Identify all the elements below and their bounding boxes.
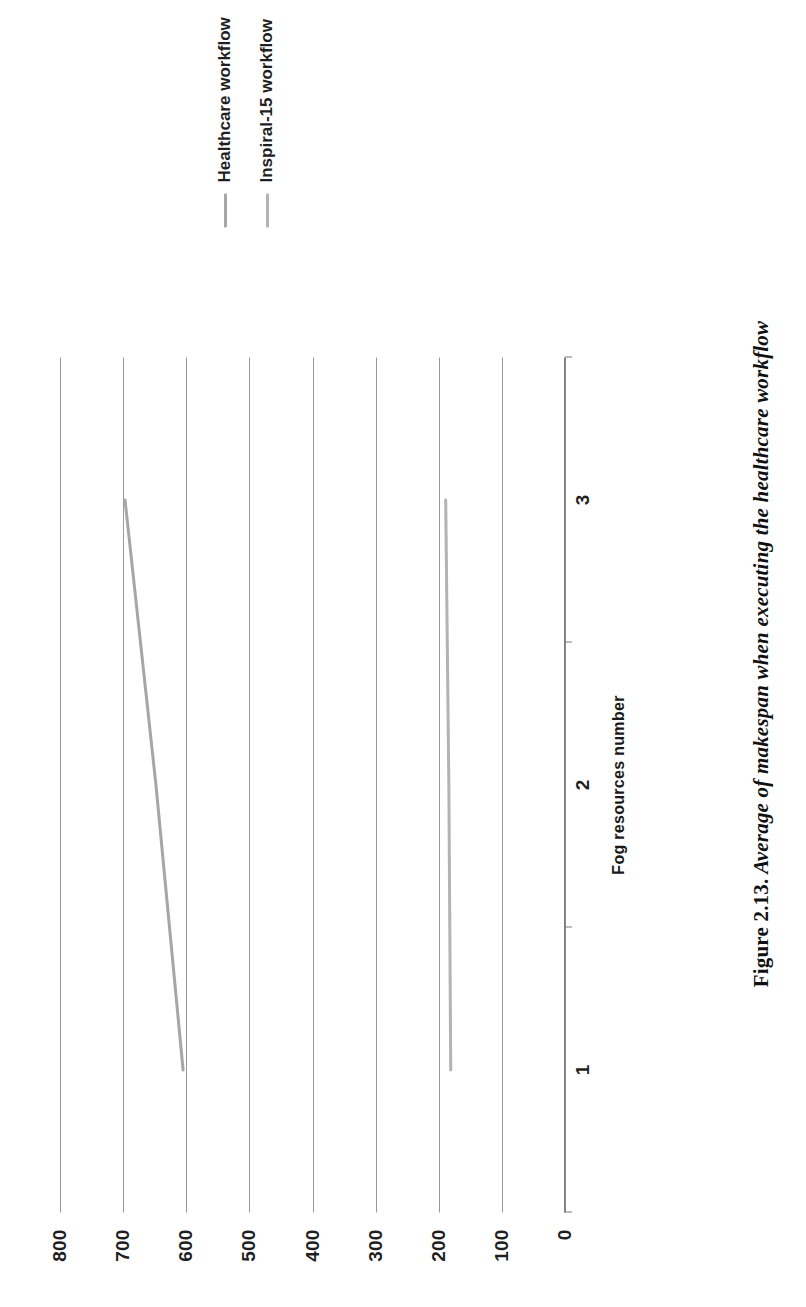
figure-number: Figure 2.13. <box>749 878 773 987</box>
rotated-figure: 0100200300400500600700800 123 Fog resour… <box>0 0 806 1307</box>
x-axis-title: Fog resources number <box>610 357 628 1212</box>
gridline-0 <box>565 357 566 1212</box>
x-axis-tick <box>565 926 572 927</box>
x-tick-label-2: 2 <box>572 779 594 790</box>
x-axis-tick <box>565 1211 572 1212</box>
y-tick-label-600: 600 <box>175 1229 197 1261</box>
x-axis-tick <box>565 356 572 357</box>
series-line-healthcare-workflow <box>125 500 183 1070</box>
series-line-inspiral-15-workflow <box>446 500 451 1070</box>
x-axis-tick-labels: 123 <box>572 357 606 1212</box>
x-axis-tick <box>565 641 572 642</box>
x-tick-label-1: 1 <box>572 1064 594 1075</box>
legend-line-icon <box>224 193 227 227</box>
legend-item-2[interactable]: Inspiral-15 workflow <box>257 17 277 227</box>
y-tick-label-0: 0 <box>554 1229 576 1240</box>
legend-label: Healthcare workflow <box>215 17 235 182</box>
legend-line-icon <box>266 193 269 227</box>
figure-caption-text: Average of makespan when executing the h… <box>749 320 773 873</box>
y-tick-label-500: 500 <box>238 1229 260 1261</box>
y-axis-tick-labels: 0100200300400500600700800 <box>60 1217 565 1307</box>
figure-page: 0100200300400500600700800 123 Fog resour… <box>0 0 806 1307</box>
plot-canvas <box>60 357 565 1212</box>
y-tick-label-400: 400 <box>302 1229 324 1261</box>
chart-legend: Healthcare workflowInspiral-15 workflow <box>215 17 277 227</box>
y-tick-label-300: 300 <box>365 1229 387 1261</box>
y-tick-label-100: 100 <box>491 1229 513 1261</box>
series-layer <box>60 357 565 1212</box>
chart-plot-area <box>60 357 565 1212</box>
figure-caption: Figure 2.13. Average of makespan when ex… <box>749 64 774 1244</box>
y-tick-label-700: 700 <box>112 1229 134 1261</box>
x-tick-label-3: 3 <box>572 494 594 505</box>
legend-item-1[interactable]: Healthcare workflow <box>215 17 235 227</box>
y-tick-label-800: 800 <box>49 1229 71 1261</box>
y-tick-label-200: 200 <box>428 1229 450 1261</box>
legend-label: Inspiral-15 workflow <box>257 19 277 182</box>
